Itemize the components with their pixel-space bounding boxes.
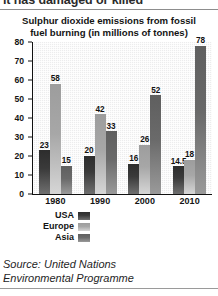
x-axis: 1980 1990 2000 2010	[33, 196, 212, 206]
bar-fill	[61, 166, 72, 195]
y-tick-label: 0	[19, 190, 24, 199]
legend-label: Asia	[55, 233, 74, 242]
cutoff-running-text: it has damaged or killed	[3, 0, 215, 7]
bar-value-label: 78	[196, 37, 205, 45]
bar-usa-1990[interactable]: 20	[84, 156, 95, 194]
chart-legend: USA Europe Asia	[0, 210, 218, 243]
bar-value-label: 33	[107, 123, 116, 131]
bar-fill	[106, 131, 117, 194]
bar-fill	[139, 145, 150, 194]
source-line-2: Environmental Programme	[3, 272, 215, 286]
bar-group-2010: 14.5 18 78	[173, 42, 206, 194]
bar-fill	[50, 84, 61, 194]
x-tick-label: 2000	[128, 196, 161, 206]
bar-fill	[150, 95, 161, 194]
bar-group-1990: 20 42 33	[84, 42, 117, 194]
legend-swatch-icon	[78, 223, 90, 231]
bar-europe-1990[interactable]: 42	[95, 114, 106, 194]
chart-source: Source: United Nations Environmental Pro…	[3, 258, 215, 285]
bar-asia-2000[interactable]: 52	[150, 95, 161, 194]
bar-value-label: 23	[40, 142, 49, 150]
bar-value-label: 20	[85, 147, 94, 155]
bar-europe-2000[interactable]: 26	[139, 145, 150, 194]
bar-fill	[184, 160, 195, 194]
bar-asia-2010[interactable]: 78	[195, 46, 206, 194]
bar-fill	[84, 156, 95, 194]
bar-value-label: 58	[51, 75, 60, 83]
x-tick-label: 1990	[84, 196, 117, 206]
bar-usa-2010[interactable]: 14.5	[173, 166, 184, 194]
y-tick-label: 10	[14, 171, 24, 180]
y-tick-label: 70	[14, 57, 24, 66]
bar-group-1980: 23 58 15	[39, 42, 72, 194]
legend-item-asia: Asia	[0, 232, 90, 243]
x-tick-label: 2010	[173, 196, 206, 206]
bar-usa-2000[interactable]: 16	[128, 164, 139, 194]
bar-asia-1990[interactable]: 33	[106, 131, 117, 194]
legend-item-usa: USA	[0, 210, 90, 221]
source-line-1: Source: United Nations	[3, 258, 215, 272]
bar-fill	[128, 164, 139, 194]
bars-layer: 23 58 15 20 42	[33, 42, 212, 194]
legend-swatch-icon	[78, 212, 90, 220]
bar-europe-1980[interactable]: 58	[50, 84, 61, 194]
y-tick-label: 50	[14, 95, 24, 104]
bar-fill	[39, 150, 50, 194]
bar-value-label: 18	[185, 151, 194, 159]
chart-figure: Sulphur dioxide emissions from fossil fu…	[0, 12, 218, 243]
bar-value-label: 52	[151, 87, 160, 95]
y-tick-label: 80	[14, 38, 24, 47]
bar-fill	[173, 166, 184, 194]
chart-title-line-1: Sulphur dioxide emissions from fossil	[22, 15, 196, 26]
y-axis: 80 70 60 50 40 30 20 10 0	[6, 42, 28, 194]
plot-wrapper: 80 70 60 50 40 30 20 10 0 23	[6, 42, 212, 208]
bar-value-label: 26	[140, 136, 149, 144]
bar-asia-1980[interactable]: 15	[61, 166, 72, 195]
legend-swatch-icon	[78, 234, 90, 242]
y-tick-label: 20	[14, 152, 24, 161]
y-tick-label: 60	[14, 76, 24, 85]
chart-title-line-2: fuel burning (in millions of tonnes)	[30, 27, 188, 38]
legend-item-europe: Europe	[0, 221, 90, 232]
y-tick-label: 30	[14, 133, 24, 142]
divider-bottom	[0, 288, 218, 289]
legend-label: Europe	[43, 222, 74, 231]
bar-value-label: 16	[129, 155, 138, 163]
x-tick-label: 1980	[39, 196, 72, 206]
bar-usa-1980[interactable]: 23	[39, 150, 50, 194]
legend-label: USA	[55, 211, 74, 220]
bar-fill	[95, 114, 106, 194]
chart-title: Sulphur dioxide emissions from fossil fu…	[0, 12, 218, 41]
bar-value-label: 15	[62, 157, 71, 165]
bar-fill	[195, 46, 206, 194]
bar-europe-2010[interactable]: 18	[184, 160, 195, 194]
bar-value-label: 42	[96, 106, 105, 114]
bar-group-2000: 16 26 52	[128, 42, 161, 194]
divider-top	[0, 9, 218, 10]
y-tick-label: 40	[14, 114, 24, 123]
